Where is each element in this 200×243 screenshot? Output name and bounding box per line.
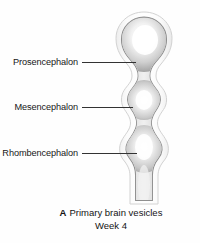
- primary-brain-vesicles-figure: Prosencephalon Mesencephalon Rhombenceph…: [0, 0, 200, 243]
- figure-caption: APrimary brain vesicles Week 4: [0, 206, 200, 232]
- prosencephalon-highlight: [132, 25, 158, 55]
- leader-line-mesencephalon: [82, 107, 133, 108]
- label-mesencephalon: Mesencephalon: [0, 101, 78, 113]
- label-prosencephalon: Prosencephalon: [0, 56, 78, 68]
- lower-tube-highlight: [138, 165, 150, 205]
- leader-line-prosencephalon: [82, 62, 136, 63]
- caption-title-line: APrimary brain vesicles: [0, 206, 200, 219]
- caption-subtitle: Week 4: [0, 219, 200, 232]
- label-rhombencephalon: Rhombencephalon: [0, 147, 78, 159]
- callout-mesencephalon: Mesencephalon: [0, 101, 137, 113]
- mesencephalon-highlight: [136, 90, 153, 110]
- callout-rhombencephalon: Rhombencephalon: [0, 147, 141, 159]
- callout-prosencephalon: Prosencephalon: [0, 56, 140, 68]
- caption-title: Primary brain vesicles: [69, 207, 162, 218]
- caption-panel-letter: A: [60, 207, 67, 218]
- leader-line-rhombencephalon: [82, 153, 137, 154]
